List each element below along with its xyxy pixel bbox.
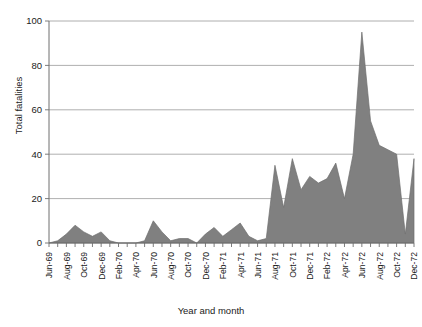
x-tick-label: Jun-69	[44, 252, 54, 278]
x-tick-label: Oct-69	[79, 252, 89, 278]
x-tick-label: Aug-70	[166, 252, 176, 280]
area-series	[49, 32, 414, 243]
y-tick-label: 80	[31, 60, 42, 71]
x-tick-label: Apr-72	[340, 252, 350, 278]
y-tick-label: 60	[31, 104, 42, 115]
x-tick-label: Aug-72	[375, 252, 385, 280]
x-tick-label: Dec-70	[201, 252, 211, 280]
x-tick-label: Aug-71	[270, 252, 280, 280]
x-tick-label: Oct-72	[392, 252, 402, 278]
fatalities-area-chart: Total fatalities Year and month 02040608…	[0, 0, 422, 327]
x-tick-label: Feb-70	[114, 252, 124, 279]
area-fill	[49, 32, 414, 243]
x-tick-label: Dec-72	[409, 252, 419, 280]
plot-area: 020406080100 Jun-69Aug-69Oct-69Dec-69Feb…	[0, 0, 422, 327]
x-tick-label: Dec-71	[305, 252, 315, 280]
x-tick-label: Oct-70	[183, 252, 193, 278]
y-tick-label: 20	[31, 193, 42, 204]
x-axis-ticks: Jun-69Aug-69Oct-69Dec-69Feb-70Apr-70Jun-…	[44, 243, 419, 280]
x-tick-label: Apr-71	[236, 252, 246, 278]
x-tick-label: Aug-69	[62, 252, 72, 280]
x-tick-label: Jun-72	[357, 252, 367, 278]
x-tick-label: Dec-69	[97, 252, 107, 280]
y-tick-label: 0	[37, 237, 42, 248]
x-tick-label: Jun-71	[253, 252, 263, 278]
x-tick-label: Feb-72	[322, 252, 332, 279]
y-tick-label: 100	[26, 15, 42, 26]
y-tick-label: 40	[31, 149, 42, 160]
x-tick-label: Jun-70	[149, 252, 159, 278]
x-tick-label: Apr-70	[131, 252, 141, 278]
y-axis-ticks: 020406080100	[26, 15, 49, 248]
x-tick-label: Oct-71	[288, 252, 298, 278]
x-tick-label: Feb-71	[218, 252, 228, 279]
